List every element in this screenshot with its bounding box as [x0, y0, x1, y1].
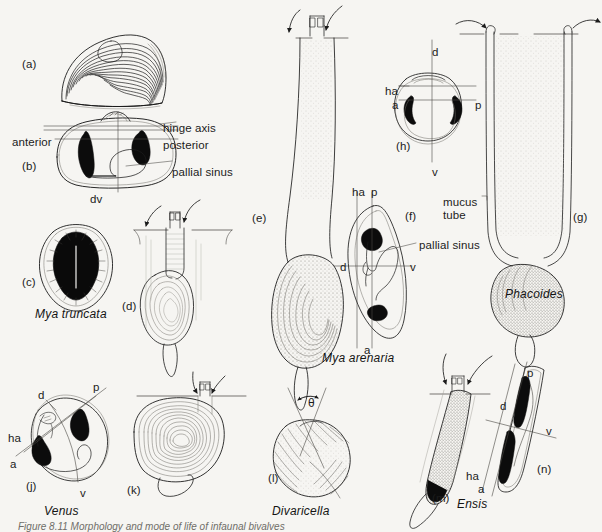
panel-label-l: (l): [268, 472, 279, 485]
axis-label-ha-j: ha: [8, 432, 21, 445]
panel-label-b: (b): [22, 160, 36, 173]
annotation-hinge-axis: hinge axis: [163, 122, 216, 135]
panel-label-d: (d): [122, 300, 136, 313]
annotation-posterior: posterior: [163, 139, 209, 152]
panel-e-mya-arenaria-burrow: [272, 6, 348, 410]
panel-label-h: (h): [396, 140, 410, 153]
axis-label-d-n: d: [500, 400, 507, 413]
panel-g-phacoides-mucus-tube: [456, 20, 600, 367]
species-label-venus: Venus: [44, 505, 79, 518]
species-label-phacoides: Phacoides: [505, 288, 563, 301]
panel-label-e: (e): [252, 212, 266, 225]
angle-label-theta: θ: [308, 397, 315, 410]
panel-b-valve-interior: [44, 112, 178, 192]
panel-label-a: (a): [22, 58, 36, 71]
axis-label-p-n: p: [527, 367, 534, 380]
panel-n-ensis-valve-diagram: [482, 362, 556, 496]
panel-label-k: (k): [127, 484, 141, 497]
species-label-ensis: Ensis: [457, 498, 487, 511]
panel-label-j: (j): [26, 480, 37, 493]
species-label-mya-arenaria: Mya arenaria: [322, 352, 394, 365]
axis-label-ha-f: ha: [352, 186, 365, 199]
panel-label-n: (n): [537, 463, 551, 476]
axis-label-p-h: p: [475, 99, 482, 112]
annotation-pallial-sinus-f: pallial sinus: [419, 239, 480, 252]
panel-c-anterior-view: [39, 225, 112, 312]
panel-label-m: (m): [432, 492, 450, 505]
axis-label-a-j: a: [10, 458, 17, 471]
axis-label-ha-n: ha: [466, 470, 479, 483]
panel-label-c: (c): [22, 276, 36, 289]
axis-label-d-j: d: [38, 389, 45, 402]
figure-caption: Figure 8.11 Morphology and mode of life …: [18, 521, 578, 532]
annotation-mucus: mucus: [443, 196, 477, 209]
axis-label-p-j: p: [93, 381, 100, 394]
panel-label-g: (g): [573, 211, 587, 224]
axis-label-p-f: p: [371, 186, 378, 199]
panel-d-mya-truncata-burrow: [134, 200, 232, 377]
panel-k-venus-life-position: [134, 372, 246, 496]
axis-label-d-f: d: [340, 261, 347, 274]
figure-artwork: [0, 0, 602, 532]
axis-label-v-h: v: [432, 166, 438, 179]
axis-label-d-h: d: [432, 46, 439, 59]
species-label-divaricella: Divaricella: [272, 505, 330, 518]
annotation-pallial-sinus-b: pallial sinus: [172, 166, 233, 179]
annotation-tube: tube: [443, 209, 466, 222]
annotation-anterior: anterior: [12, 136, 52, 149]
species-label-mya-truncata: Mya truncata: [35, 308, 107, 321]
panel-j-venus-valve-diagram: [16, 388, 109, 482]
panel-a-shell-exterior: [62, 35, 166, 109]
axis-label-v-n: v: [546, 425, 552, 438]
axis-label-v-f: v: [410, 261, 416, 274]
axis-label-a-h: a: [392, 99, 399, 112]
axis-label-dv: dv: [90, 193, 102, 206]
axis-label-v-j: v: [80, 487, 86, 500]
panel-label-f: (f): [405, 210, 416, 223]
axis-label-a-n: a: [478, 483, 485, 496]
figure-plate: (a) (b) (c) (d) (e) (f) (g) (h) (j) (k) …: [0, 0, 602, 532]
axis-label-ha-h: ha: [385, 85, 398, 98]
